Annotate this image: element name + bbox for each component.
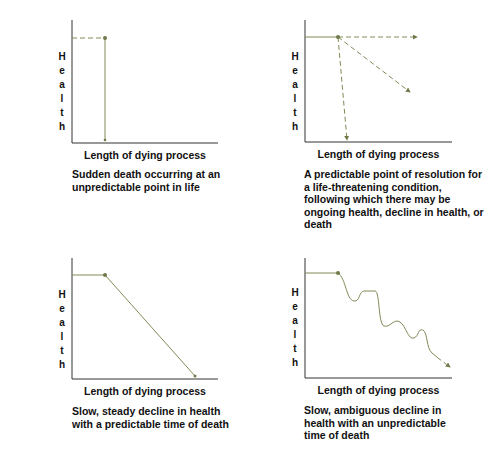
panel-caption: Slow, ambiguous decline in health with a… [304,404,454,442]
y-axis-label: Health [289,286,301,370]
ambiguous-decline-curve [338,273,438,358]
decline-start-marker [336,271,340,275]
x-axis-label: Length of dying process [305,384,452,396]
panel-ambiguous-decline: Health Length of dying process Slow, amb… [0,0,488,459]
trajectory-plot [0,0,488,400]
continuing-decline-dashed [438,358,450,367]
